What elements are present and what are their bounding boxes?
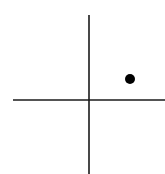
plotted-point	[125, 74, 135, 84]
coordinate-plane	[0, 0, 165, 174]
